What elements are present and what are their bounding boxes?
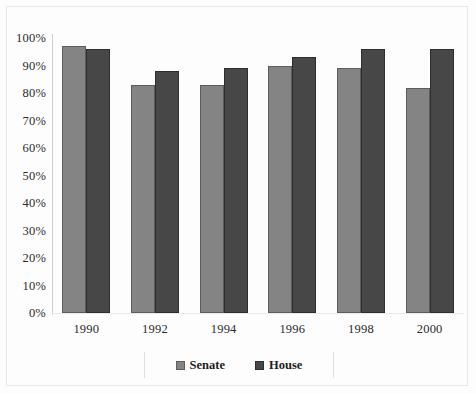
bar-house-1996: [292, 57, 316, 313]
bar-house-2000: [430, 49, 454, 313]
legend-label-house: House: [269, 358, 302, 373]
bar-senate-1990: [62, 46, 86, 313]
bar-senate-1994: [200, 85, 224, 313]
legend-item-senate: Senate: [176, 358, 225, 373]
y-axis-tick-label: 90%: [22, 58, 46, 73]
y-axis-tick-labels: 100%90%80%70%60%50%40%30%20%10%0%: [0, 0, 46, 394]
plot-area: [52, 38, 464, 313]
y-axis-tick-label: 10%: [22, 278, 46, 293]
x-axis-line: [52, 313, 464, 314]
y-axis-tick-label: 40%: [22, 196, 46, 211]
bar-house-1994: [224, 68, 248, 313]
legend-swatch-senate-icon: [176, 361, 185, 370]
bar-house-1992: [155, 71, 179, 313]
y-axis-tick-label: 30%: [22, 223, 46, 238]
bar-senate-1998: [337, 68, 361, 313]
bar-chart: 100%90%80%70%60%50%40%30%20%10%0% Senate…: [0, 0, 476, 394]
bar-group: [131, 38, 179, 313]
legend-swatch-house-icon: [255, 361, 264, 370]
legend-label-senate: Senate: [190, 358, 225, 373]
bar-group: [406, 38, 454, 313]
bar-senate-2000: [406, 88, 430, 314]
y-axis-tick-label: 100%: [16, 31, 46, 46]
y-axis-tick-label: 60%: [22, 141, 46, 156]
chart-legend: Senate House: [144, 352, 334, 378]
bar-house-1998: [361, 49, 385, 313]
y-axis-tick-label: 50%: [22, 168, 46, 183]
bar-group: [62, 38, 110, 313]
bar-senate-1992: [131, 85, 155, 313]
bar-group: [268, 38, 316, 313]
y-axis-tick-label: 80%: [22, 86, 46, 101]
x-axis-category-label: 2000: [417, 322, 443, 337]
bar-house-1990: [86, 49, 110, 313]
bar-group: [337, 38, 385, 313]
y-axis-tick-label: 0%: [29, 306, 46, 321]
bar-senate-1996: [268, 66, 292, 314]
legend-item-house: House: [255, 358, 302, 373]
x-axis-category-label: 1990: [73, 322, 99, 337]
y-axis-tick-label: 70%: [22, 113, 46, 128]
y-axis-tick-label: 20%: [22, 251, 46, 266]
x-axis-category-label: 1994: [211, 322, 237, 337]
x-axis-category-label: 1992: [142, 322, 168, 337]
bar-group: [200, 38, 248, 313]
x-axis-category-label: 1998: [348, 322, 374, 337]
x-axis-category-label: 1996: [279, 322, 305, 337]
